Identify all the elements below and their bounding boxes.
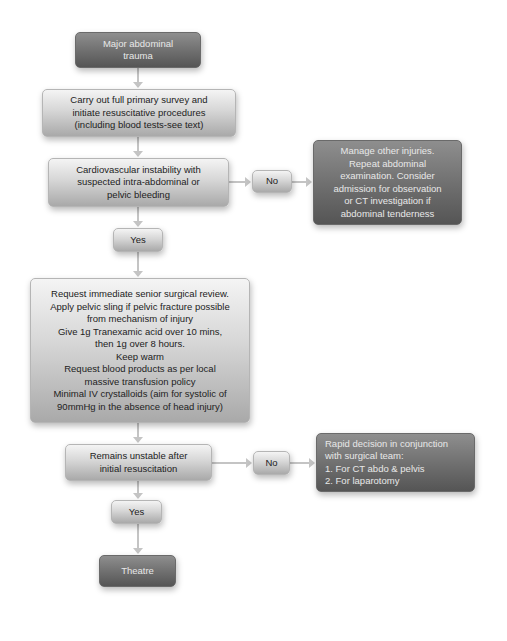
decision-2-yes-node: Yes — [111, 500, 162, 524]
arrow-right-icon — [246, 458, 252, 468]
decision-2-label: Remains unstable after initial resuscita… — [90, 450, 188, 475]
primary-survey-node: Carry out full primary survey and initia… — [42, 89, 236, 137]
start-node-label: Major abdominal trauma — [103, 38, 173, 63]
rapid-decision-node: Rapid decision in conjunction with surgi… — [316, 433, 475, 492]
arrow-down-icon — [133, 82, 143, 88]
primary-survey-label: Carry out full primary survey and initia… — [70, 94, 207, 132]
arrow-down-icon — [133, 493, 143, 499]
connector-decision2-to-no — [212, 462, 247, 464]
connector-yes-to-theatre — [137, 524, 139, 549]
decision-1-yes-node: Yes — [113, 228, 163, 252]
actions-node: Request immediate senior surgical review… — [30, 278, 250, 423]
arrow-down-icon — [133, 271, 143, 277]
actions-label: Request immediate senior surgical review… — [50, 288, 230, 413]
connector-decision1-to-no — [229, 181, 246, 183]
decision-2-no-node: No — [253, 451, 290, 475]
arrow-down-icon — [133, 548, 143, 554]
decision-1-no-node: No — [252, 170, 292, 193]
decision-1-label: Cardiovascular instability with suspecte… — [76, 164, 201, 202]
arrow-right-icon — [306, 177, 312, 187]
start-node: Major abdominal trauma — [75, 32, 201, 68]
connector-start-to-survey — [137, 68, 139, 83]
rapid-decision-label: Rapid decision in conjunction with surgi… — [325, 438, 448, 488]
decision-2-no-label: No — [265, 457, 277, 470]
arrow-down-icon — [133, 151, 143, 157]
decision-1-no-label: No — [266, 175, 278, 188]
decision-1-node: Cardiovascular instability with suspecte… — [48, 158, 229, 207]
connector-survey-to-decision1 — [137, 137, 139, 152]
arrow-right-icon — [245, 177, 251, 187]
connector-yes-to-actions — [137, 252, 139, 272]
arrow-down-icon — [133, 437, 143, 443]
theatre-label: Theatre — [121, 565, 154, 578]
arrow-right-icon — [309, 458, 315, 468]
manage-other-injuries-label: Manage other injuries. Repeat abdominal … — [333, 145, 441, 220]
decision-1-yes-label: Yes — [130, 234, 146, 247]
theatre-node: Theatre — [99, 555, 176, 587]
decision-2-node: Remains unstable after initial resuscita… — [65, 444, 212, 481]
connector-no-to-manage — [292, 181, 307, 183]
connector-no-to-rapid — [290, 462, 310, 464]
connector-actions-to-decision2 — [137, 423, 139, 438]
manage-other-injuries-node: Manage other injuries. Repeat abdominal … — [313, 140, 462, 225]
decision-2-yes-label: Yes — [129, 506, 145, 519]
arrow-down-icon — [133, 221, 143, 227]
connector-decision1-to-yes — [137, 207, 139, 222]
